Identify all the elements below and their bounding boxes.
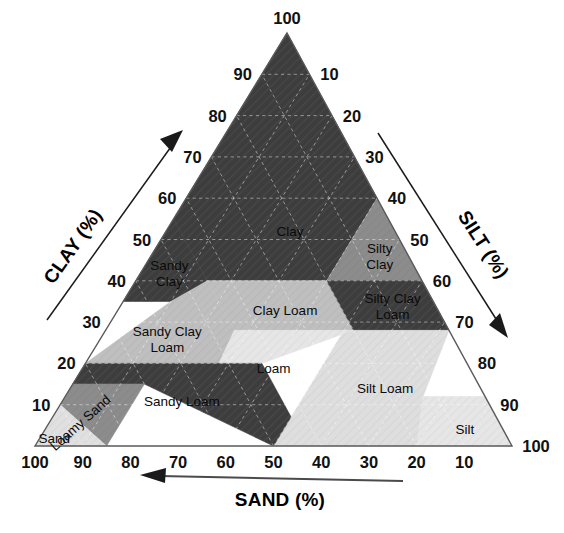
silt-axis-arrowhead bbox=[489, 313, 508, 338]
label-group-silty-clay: SiltyClay bbox=[366, 241, 393, 272]
sand-tick-10: 10 bbox=[455, 453, 473, 471]
silt-tick-80: 80 bbox=[478, 354, 496, 372]
region-label-sandy-loam: Sandy Loam bbox=[144, 394, 220, 409]
silt-tick-60: 60 bbox=[433, 272, 451, 290]
region-hatch-silt bbox=[417, 396, 512, 446]
clay-tick-10: 10 bbox=[32, 396, 50, 414]
region-label-silt-loam: Silt Loam bbox=[357, 381, 413, 396]
region-label-sandy-clay-loam: Sandy Clay bbox=[133, 324, 202, 339]
label-group-silt: Silt bbox=[455, 422, 474, 437]
region-label-silty-clay-loam: Silty Clay bbox=[364, 291, 421, 306]
clay-tick-20: 20 bbox=[57, 354, 75, 372]
label-group-clay: Clay bbox=[277, 224, 304, 239]
sand-axis-arrowhead bbox=[140, 468, 166, 483]
silt-tick-90: 90 bbox=[500, 396, 518, 414]
label-group-sandy-loam: Sandy Loam bbox=[144, 394, 220, 409]
sand-tick-30: 30 bbox=[360, 453, 378, 471]
sand-tick-40: 40 bbox=[312, 453, 330, 471]
sand-tick-100: 100 bbox=[21, 453, 49, 471]
label-group-clay-loam: Clay Loam bbox=[253, 303, 318, 318]
silt-tick-70: 70 bbox=[455, 313, 473, 331]
sand-tick-90: 90 bbox=[74, 453, 92, 471]
sand-tick-80: 80 bbox=[121, 453, 139, 471]
clay-axis-title: CLAY (%) bbox=[39, 205, 106, 288]
region-label-sandy-clay: Clay bbox=[156, 274, 183, 289]
region-label-clay: Clay bbox=[277, 224, 304, 239]
region-label-clay-loam: Clay Loam bbox=[253, 303, 318, 318]
region-label-sandy-clay: Sandy bbox=[150, 258, 189, 273]
sand-tick-60: 60 bbox=[217, 453, 235, 471]
clay-axis-arrowhead bbox=[160, 130, 183, 152]
label-group-sand: Sand bbox=[39, 431, 71, 446]
silt-tick-40: 40 bbox=[388, 189, 406, 207]
clay-tick-50: 50 bbox=[133, 231, 151, 249]
region-label-silt: Silt bbox=[455, 422, 474, 437]
region-label-loam: Loam bbox=[257, 361, 291, 376]
label-group-silt-loam: Silt Loam bbox=[357, 381, 413, 396]
silt-tick-100: 100 bbox=[522, 437, 550, 455]
label-group-loam: Loam bbox=[257, 361, 291, 376]
sand-axis-title: SAND (%) bbox=[235, 489, 325, 510]
sand-tick-50: 50 bbox=[264, 453, 282, 471]
region-label-silty-clay: Clay bbox=[366, 257, 393, 272]
silt-tick-50: 50 bbox=[410, 231, 428, 249]
sand-tick-70: 70 bbox=[169, 453, 187, 471]
sand-tick-20: 20 bbox=[407, 453, 425, 471]
clay-tick-80: 80 bbox=[208, 107, 226, 125]
region-label-silty-clay: Silty bbox=[367, 241, 393, 256]
clay-tick-30: 30 bbox=[82, 313, 100, 331]
silt-tick-20: 20 bbox=[343, 107, 361, 125]
silt-tick-30: 30 bbox=[365, 148, 383, 166]
region-label-silty-clay-loam: Loam bbox=[376, 307, 410, 322]
region-label-sandy-clay-loam: Loam bbox=[150, 340, 184, 355]
clay-tick-90: 90 bbox=[234, 65, 252, 83]
sand-axis-arrow-line bbox=[160, 476, 403, 481]
clay-tick-70: 70 bbox=[183, 148, 201, 166]
clay-tick-60: 60 bbox=[158, 189, 176, 207]
silt-axis-title: SILT (%) bbox=[454, 207, 513, 282]
region-label-sand: Sand bbox=[39, 431, 71, 446]
silt-tick-10: 10 bbox=[320, 65, 338, 83]
clay-tick-40: 40 bbox=[108, 272, 126, 290]
ternary-diagram-svg: 1020304050607080901001020304050607080901… bbox=[0, 0, 564, 533]
soil-texture-triangle-figure: 1020304050607080901001020304050607080901… bbox=[0, 0, 564, 533]
clay-tick-100: 100 bbox=[273, 9, 301, 27]
